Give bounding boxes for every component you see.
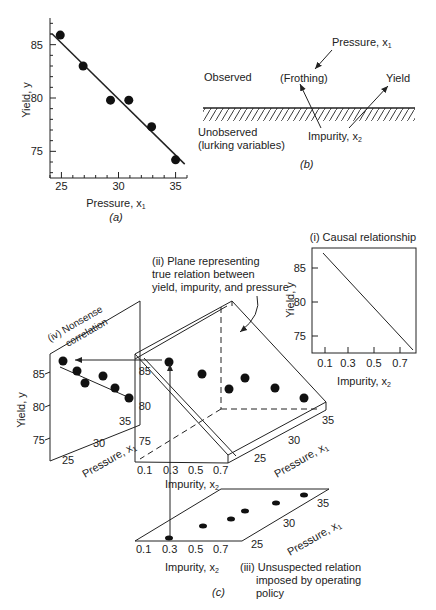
impurity-to-frothing-arrow [300, 84, 321, 128]
a-caption: (a) [109, 211, 123, 223]
lurking-variables-label: (lurking variables) [198, 139, 285, 151]
iv-ytick-mark [45, 372, 50, 374]
nonsense-data-point [125, 394, 134, 403]
ii-impurity-label: Impurity, x2 [165, 478, 219, 491]
ci-xtick-0.3: 0.3 [340, 357, 355, 369]
iv-ytick-80: 80 [33, 401, 45, 413]
plane-data-point [198, 370, 207, 379]
a-data-point [56, 31, 65, 40]
a-fit-line [52, 34, 184, 164]
iii-ptick-35: 35 [317, 497, 329, 509]
ii-itick-0.7: 0.7 [213, 464, 228, 476]
policy-data-point [199, 524, 207, 529]
ii-ytick-80: 80 [139, 400, 151, 412]
unobserved-hatch [203, 108, 415, 121]
panel-c-i-causal: (i) Causal relationship 85 80 75 0.1 0.3… [284, 231, 416, 388]
policy-label-1: (iii) Unsuspected relation [240, 561, 361, 573]
panel-b-diagram: Observed Unobserved (lurking variables) … [198, 36, 415, 170]
yield-label: Yield [386, 72, 410, 84]
causal-frame [312, 248, 416, 353]
ii-ptick-25: 25 [254, 452, 266, 464]
frothing-label: (Frothing) [280, 72, 328, 84]
a-data-point [171, 155, 180, 164]
ii-ytick-75: 75 [139, 435, 151, 447]
a-data-point [147, 122, 156, 131]
pressure-label: Pressure, x1 [332, 36, 392, 49]
iv-ptick-30: 30 [93, 437, 105, 449]
ci-xtick-0.1: 0.1 [317, 357, 332, 369]
policy-data-point [300, 493, 308, 498]
a-data-point [106, 96, 115, 105]
ii-impurity-sub: 2 [215, 484, 219, 491]
ci-ytick-85: 85 [294, 262, 306, 274]
nonsense-data-point [73, 367, 82, 376]
ii-impurity-text: Impurity, x [165, 478, 215, 490]
b-caption: (b) [300, 158, 314, 170]
plane-data-point [241, 374, 250, 383]
policy-data-point [272, 501, 280, 506]
impurity-to-yield-arrow [349, 86, 388, 128]
ii-pressure-label: Pressure, x1 [272, 440, 330, 481]
impurity-label: Impurity, x2 [308, 130, 362, 143]
iii-ptick-25: 25 [251, 538, 263, 550]
iv-ylabel: Yield, y [15, 392, 27, 428]
a-xtick-35: 35 [169, 180, 181, 192]
impurity-label-text: Impurity, x [308, 130, 358, 142]
policy-data-point [165, 536, 173, 541]
causal-title: (i) Causal relationship [310, 231, 416, 243]
iii-itick-0.5: 0.5 [188, 543, 203, 555]
iv-ytick-75: 75 [33, 434, 45, 446]
impurity-label-sub: 2 [358, 136, 362, 143]
ci-ytick-75: 75 [294, 330, 306, 342]
a-xtick-30: 30 [112, 180, 124, 192]
observed-label: Observed [204, 71, 252, 83]
pressure-to-frothing-arrow [315, 50, 332, 69]
a-xlabel-text: Pressure, x [86, 197, 142, 209]
nonsense-fit-line [60, 367, 130, 398]
panel-c-3d: (iv) Nonsense correlation 85 80 75 Yield… [15, 255, 361, 599]
a-data-point [79, 62, 88, 71]
iii-impurity-label: Impurity, x2 [165, 561, 219, 574]
a-xtick-25: 25 [55, 180, 67, 192]
ci-xlabel-sub: 2 [387, 381, 391, 388]
iii-impurity-text: Impurity, x [165, 561, 215, 573]
plane-data-point [300, 394, 309, 403]
iv-ptick-25: 25 [62, 454, 74, 466]
ci-xlabel: Impurity, x2 [337, 375, 391, 388]
iv-ytick-mark [45, 438, 50, 440]
pressure-label-sub: 1 [388, 42, 392, 49]
policy-data-point [241, 509, 249, 514]
ci-xtick-0.7: 0.7 [392, 357, 407, 369]
a-ytick-75: 75 [31, 145, 43, 157]
nonsense-data-point [99, 372, 108, 381]
a-data-point [124, 96, 133, 105]
plane-top [135, 301, 326, 455]
ii-ptick-30: 30 [288, 434, 300, 446]
policy-label-2: imposed by operating [256, 574, 361, 586]
nonsense-data-point [59, 357, 68, 366]
ci-xtick-0.5: 0.5 [366, 357, 381, 369]
iii-itick-0.3: 0.3 [162, 543, 177, 555]
nonsense-data-point [111, 384, 120, 393]
c-caption: (c) [212, 586, 225, 598]
figure-canvas: 25 30 35 75 80 85 Pressure, x1 (a) Yield… [0, 0, 436, 610]
unobserved-label: Unobserved [198, 126, 257, 138]
plane-data-point [271, 384, 280, 393]
plane-label-1: (ii) Plane representing [152, 255, 260, 267]
a-xlabel-sub: 1 [142, 203, 146, 210]
nonsense-data-point [81, 379, 90, 388]
ii-pressure-text: Pressure, x [272, 441, 327, 479]
iii-itick-0.7: 0.7 [213, 543, 228, 555]
a-ylabel: Yield, y [20, 82, 32, 118]
policy-plane [135, 489, 329, 541]
policy-data-point [227, 517, 235, 522]
plane-label-2: true relation between [152, 268, 255, 280]
ii-ytick-85: 85 [139, 365, 151, 377]
causal-line [323, 253, 413, 350]
iv-pressure-text: Pressure, x [80, 441, 135, 479]
iii-ptick-30: 30 [283, 517, 295, 529]
ii-itick-0.5: 0.5 [188, 464, 203, 476]
plane-data-point [165, 358, 174, 367]
iv-ptick-35: 35 [119, 415, 131, 427]
pressure-label-text: Pressure, x [332, 36, 388, 48]
